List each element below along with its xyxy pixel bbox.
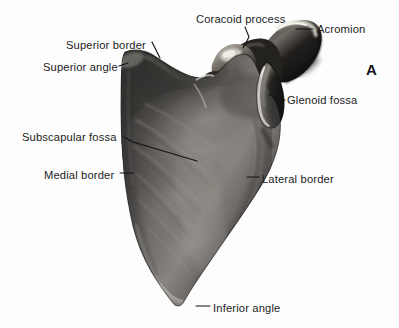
label-coracoid-process: Coracoid process: [196, 14, 285, 25]
scapula-illustration: [0, 0, 399, 328]
label-inferior-angle: Inferior angle: [213, 303, 280, 314]
anatomical-figure: Superior borderSuperior angleCoracoid pr…: [0, 0, 399, 328]
label-medial-border: Medial border: [44, 170, 114, 181]
label-superior-border: Superior border: [66, 40, 146, 51]
label-glenoid-fossa: Glenoid fossa: [287, 95, 357, 106]
label-lateral-border: Lateral border: [262, 174, 334, 185]
label-superior-angle: Superior angle: [43, 62, 118, 73]
figure-letter-a: A: [366, 62, 377, 77]
label-subscapular-fossa: Subscapular fossa: [22, 132, 117, 143]
label-acromion: Acromion: [317, 24, 365, 35]
